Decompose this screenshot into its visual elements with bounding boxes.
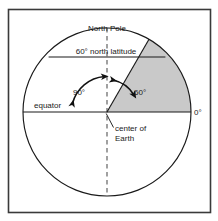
earth-cross-section-diagram: North Pole 60° north latitude equator 90… [0, 0, 218, 221]
label-angle-60-degrees: 60° [134, 88, 146, 97]
label-angle-90-degrees: 90° [73, 88, 85, 97]
label-equator: equator [34, 101, 61, 110]
label-zero-degrees: 0° [194, 108, 202, 117]
label-center-of-earth-line1: center of [115, 124, 147, 133]
label-north-pole: North Pole [88, 24, 126, 33]
figure-container: North Pole 60° north latitude equator 90… [0, 0, 218, 221]
label-center-of-earth-line2: Earth [115, 134, 134, 143]
label-60-north-latitude: 60° north latitude [76, 47, 137, 56]
